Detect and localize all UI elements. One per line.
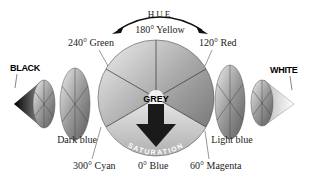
black-label: BLACK xyxy=(10,63,41,73)
grey-label: GREY xyxy=(143,94,169,104)
hue-0-blue: 0° Blue xyxy=(138,160,169,171)
hsv-diagram: HUE 180° Yellow BLACK Dark blue GREY SAT… xyxy=(0,0,310,184)
hue-label: HUE xyxy=(148,9,173,19)
hue-120-red: 120° Red xyxy=(199,37,237,48)
light-blue-label: Light blue xyxy=(211,134,253,145)
dark-blue-label: Dark blue xyxy=(57,134,97,145)
hue-240-green: 240° Green xyxy=(68,37,114,48)
hue-60-magenta: 60° Magenta xyxy=(190,160,242,171)
white-label: WHITE xyxy=(270,65,298,75)
hue-180-yellow: 180° Yellow xyxy=(135,24,185,35)
hue-300-cyan: 300° Cyan xyxy=(73,160,116,171)
